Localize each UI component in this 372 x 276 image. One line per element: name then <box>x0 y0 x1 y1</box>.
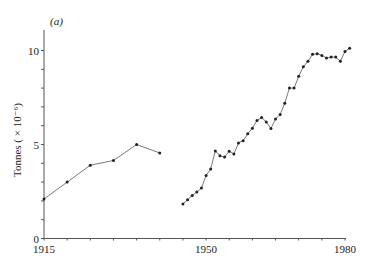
data-point <box>256 119 259 122</box>
data-point <box>330 56 333 59</box>
x-tick-label: 1950 <box>195 243 218 255</box>
chart: (a) Tonnes ( × 10⁻⁶) 0510191519501980 <box>0 0 372 276</box>
data-point <box>311 53 314 56</box>
data-point <box>265 120 268 123</box>
data-point <box>223 156 226 159</box>
data-point <box>334 56 337 59</box>
data-point <box>228 150 231 153</box>
data-point <box>181 202 184 205</box>
data-point <box>293 87 296 90</box>
series-2 <box>181 47 351 206</box>
data-point <box>158 151 161 154</box>
data-point <box>316 52 319 55</box>
data-point <box>135 143 138 146</box>
x-tick-label: 1915 <box>33 243 56 255</box>
y-tick-label: 5 <box>34 139 40 151</box>
data-point <box>209 167 212 170</box>
data-point <box>325 57 328 60</box>
data-point <box>339 60 342 63</box>
series-layer <box>43 47 352 206</box>
data-point <box>246 132 249 135</box>
y-tick-label: 10 <box>28 45 40 57</box>
data-point <box>320 54 323 57</box>
data-point <box>297 75 300 78</box>
data-point <box>288 87 291 90</box>
data-point <box>191 194 194 197</box>
data-point <box>186 198 189 201</box>
data-point <box>242 139 245 142</box>
y-axis-label: Tonnes ( × 10⁻⁶) <box>11 103 24 177</box>
data-point <box>43 198 46 201</box>
data-point <box>251 127 254 130</box>
data-point <box>344 50 347 53</box>
data-point <box>274 118 277 121</box>
data-point <box>66 181 69 184</box>
data-point <box>232 152 235 155</box>
data-point <box>306 60 309 63</box>
series-1 <box>43 143 162 201</box>
data-point <box>237 141 240 144</box>
data-point <box>214 149 217 152</box>
series-line <box>44 145 160 200</box>
data-point <box>302 65 305 68</box>
panel-label: (a) <box>50 15 63 28</box>
series-line <box>183 48 350 204</box>
data-point <box>260 116 263 119</box>
data-point <box>218 154 221 157</box>
data-point <box>195 191 198 194</box>
axes: 0510191519501980 <box>28 30 357 255</box>
data-point <box>205 174 208 177</box>
data-point <box>269 127 272 130</box>
data-point <box>279 113 282 116</box>
data-point <box>200 187 203 190</box>
data-point <box>112 159 115 162</box>
data-point <box>89 164 92 167</box>
data-point <box>348 47 351 50</box>
data-point <box>283 102 286 105</box>
x-tick-label: 1980 <box>334 243 357 255</box>
